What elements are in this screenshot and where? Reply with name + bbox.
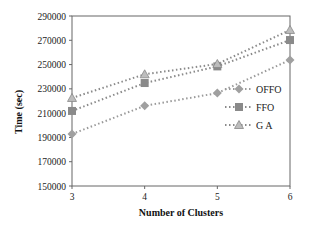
square-marker [68, 107, 76, 115]
y-tick-label: 170000 [38, 157, 67, 167]
square-marker [235, 103, 243, 111]
legend-label: FFO [256, 102, 274, 113]
y-tick-label: 250000 [38, 60, 67, 70]
diamond-marker [235, 85, 244, 94]
diamond-marker [286, 55, 295, 64]
triangle-marker [68, 93, 77, 101]
y-tick-label: 150000 [38, 182, 67, 192]
legend-item-ga: G A [225, 120, 273, 131]
y-tick-label: 230000 [38, 84, 67, 94]
series-line [72, 40, 290, 111]
x-axis-label: Number of Clusters [139, 207, 223, 218]
x-tick-label: 3 [70, 192, 75, 202]
line-chart: 1500001700001900002100002300002500002700… [0, 0, 309, 228]
legend-item-offo: OFFO [225, 84, 282, 95]
y-axis-label: Time (sec) [13, 90, 25, 134]
x-tick-label: 5 [215, 192, 220, 202]
x-tick-label: 4 [142, 192, 147, 202]
y-tick-label: 190000 [38, 133, 67, 143]
x-tick-label: 6 [288, 192, 293, 202]
diamond-marker [140, 101, 149, 110]
legend-label: OFFO [256, 84, 282, 95]
axes: 1500001700001900002100002300002500002700… [38, 12, 293, 203]
diamond-marker [68, 130, 77, 139]
triangle-marker [286, 25, 295, 33]
y-tick-label: 270000 [38, 36, 67, 46]
y-tick-label: 210000 [38, 109, 67, 119]
legend-label: G A [256, 120, 273, 131]
diamond-marker [213, 89, 222, 98]
square-marker [286, 36, 294, 44]
legend-item-ffo: FFO [225, 102, 274, 113]
square-marker [141, 79, 149, 87]
legend: OFFOFFOG A [225, 84, 282, 131]
y-tick-label: 290000 [38, 12, 67, 22]
triangle-marker [140, 70, 149, 78]
